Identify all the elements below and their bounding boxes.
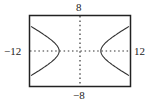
plot-area (0, 0, 153, 104)
